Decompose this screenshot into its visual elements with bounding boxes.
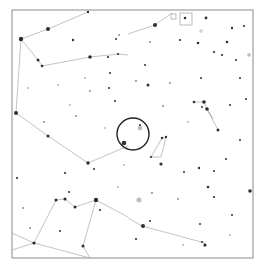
star-icon[interactable] [19,37,23,41]
star-icon[interactable] [135,238,137,240]
star-icon[interactable] [93,168,95,170]
star-icon[interactable] [221,54,223,56]
star-icon[interactable] [169,82,171,84]
star-icon[interactable] [118,34,120,36]
deep-sky-object-icon[interactable] [138,126,143,131]
star-icon[interactable] [68,191,70,193]
star-icon[interactable] [150,156,152,158]
star-icon[interactable] [231,27,233,29]
star-icon[interactable] [55,199,58,202]
star-icon[interactable] [243,25,245,27]
star-icon[interactable] [149,220,151,222]
star-icon[interactable] [235,59,237,61]
star-icon[interactable] [229,234,231,236]
star-icon[interactable] [161,137,163,139]
star-chart[interactable] [0,0,256,260]
star-icon[interactable] [64,172,66,174]
star-icon[interactable] [115,38,117,40]
star-icon[interactable] [27,87,29,89]
star-icon[interactable] [201,241,203,243]
star-icon[interactable] [200,77,202,79]
star-icon[interactable] [86,161,89,164]
star-icon[interactable] [141,224,145,228]
star-icon[interactable] [205,107,209,111]
star-icon[interactable] [14,111,18,115]
star-icon[interactable] [193,101,196,104]
star-icon[interactable] [63,197,66,200]
star-icon[interactable] [74,206,77,209]
star-icon[interactable] [149,41,151,43]
star-icon[interactable] [198,167,200,169]
star-icon[interactable] [84,77,86,79]
star-icon[interactable] [217,129,220,132]
star-icon[interactable] [201,106,203,108]
star-icon[interactable] [199,223,201,225]
deep-sky-object-icon[interactable] [247,53,251,57]
star-icon[interactable] [213,196,215,198]
star-icon[interactable] [179,39,181,41]
star-icon[interactable] [183,171,185,173]
star-icon[interactable] [226,41,229,44]
star-icon[interactable] [109,72,111,74]
star-icon[interactable] [59,230,61,232]
star-icon[interactable] [147,84,150,87]
star-icon[interactable] [187,121,189,123]
star-icon[interactable] [117,186,119,188]
star-icon[interactable] [165,136,167,138]
star-icon[interactable] [75,115,77,117]
star-icon[interactable] [16,177,18,179]
star-icon[interactable] [87,11,89,13]
star-icon[interactable] [159,162,162,165]
star-icon[interactable] [94,198,98,202]
deep-sky-object-icon[interactable] [137,198,142,203]
star-icon[interactable] [46,27,50,31]
star-icon[interactable] [203,243,206,246]
star-icon[interactable] [139,124,141,126]
star-icon[interactable] [225,158,227,160]
star-icon[interactable] [162,105,164,107]
star-icon[interactable] [47,135,50,138]
star-icon[interactable] [37,59,40,62]
star-icon[interactable] [151,192,153,194]
star-icon[interactable] [89,90,91,92]
star-icon[interactable] [184,17,187,20]
star-icon[interactable] [202,100,206,104]
star-icon[interactable] [57,84,59,86]
star-icon[interactable] [22,207,24,209]
star-icon[interactable] [239,77,241,79]
star-icon[interactable] [239,139,241,141]
star-icon[interactable] [245,98,247,100]
star-icon[interactable] [229,104,231,106]
star-icon[interactable] [41,65,44,68]
star-icon[interactable] [117,53,119,55]
star-icon[interactable] [32,241,35,244]
star-icon[interactable] [205,17,208,20]
star-icon[interactable] [88,55,92,59]
star-icon[interactable] [213,170,215,172]
deep-sky-object-icon[interactable] [199,29,203,33]
star-icon[interactable] [135,80,137,82]
star-icon[interactable] [197,42,200,45]
star-icon[interactable] [43,121,45,123]
star-icon[interactable] [231,214,233,216]
star-icon[interactable] [107,56,109,58]
star-icon[interactable] [182,244,184,246]
star-icon[interactable] [207,186,210,189]
star-icon[interactable] [153,23,157,27]
star-icon[interactable] [213,51,215,53]
star-icon[interactable] [108,87,110,89]
star-icon[interactable] [177,198,179,200]
star-icon[interactable] [72,39,74,41]
star-icon[interactable] [29,227,31,229]
star-icon[interactable] [99,209,101,211]
star-icon[interactable] [114,100,116,102]
star-icon[interactable] [248,189,252,193]
star-icon[interactable] [144,64,146,66]
star-icon[interactable] [122,141,127,146]
star-icon[interactable] [69,104,71,106]
star-icon[interactable] [123,164,125,166]
star-icon[interactable] [104,127,106,129]
star-icon[interactable] [82,245,85,248]
